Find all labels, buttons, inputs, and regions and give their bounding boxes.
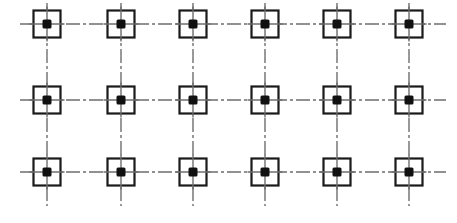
figure-background (0, 0, 457, 223)
grid-cell (248, 155, 283, 190)
cell-center-dot (117, 20, 126, 29)
cell-center-dot (405, 20, 414, 29)
grid-cell (30, 7, 65, 42)
cell-center-dot (333, 168, 342, 177)
cell-center-dot (333, 20, 342, 29)
cell-center-dot (261, 96, 270, 105)
cell-center-dot (43, 20, 52, 29)
grid-cell (392, 7, 427, 42)
grid-cell (104, 7, 139, 42)
cell-center-dot (189, 96, 198, 105)
cell-center-dot (405, 96, 414, 105)
cell-center-dot (333, 96, 342, 105)
grid-cell (176, 83, 211, 118)
cell-center-dot (261, 20, 270, 29)
cell-center-dot (189, 168, 198, 177)
cell-center-dot (261, 168, 270, 177)
grid-cell (320, 83, 355, 118)
cell-center-dot (117, 96, 126, 105)
grid-cell (30, 155, 65, 190)
grid-cell (248, 7, 283, 42)
grid-cell (30, 83, 65, 118)
cell-center-dot (189, 20, 198, 29)
grid-cell (392, 83, 427, 118)
grid-cell (392, 155, 427, 190)
cell-center-dot (405, 168, 414, 177)
grid-cell (248, 83, 283, 118)
cell-center-dot (117, 168, 126, 177)
cell-center-dot (43, 96, 52, 105)
grid-cell (104, 83, 139, 118)
grid-cell (104, 155, 139, 190)
grid-array-canvas (0, 0, 457, 223)
grid-cell (176, 155, 211, 190)
grid-cell (176, 7, 211, 42)
grid-cell (320, 155, 355, 190)
grid-array-figure: Six by three array of open squares, each… (0, 0, 457, 223)
grid-cell (320, 7, 355, 42)
cell-center-dot (43, 168, 52, 177)
